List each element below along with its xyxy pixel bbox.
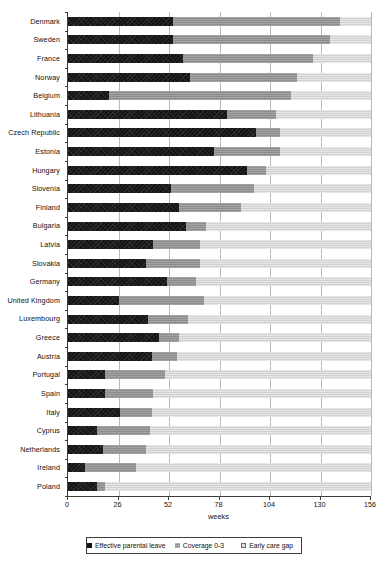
bar-row bbox=[68, 384, 371, 403]
plot-wrapper: DenmarkSwedenFranceNorwayBelgiumLithuani… bbox=[0, 0, 388, 512]
bar-segment bbox=[103, 445, 146, 454]
bar-segment bbox=[148, 315, 189, 324]
bar-segment bbox=[227, 110, 276, 119]
bar-segment bbox=[214, 147, 280, 156]
bar-row bbox=[68, 217, 371, 236]
bar-row bbox=[68, 124, 371, 143]
stacked-bar bbox=[68, 240, 371, 249]
bar-segment bbox=[313, 54, 371, 63]
stacked-bar bbox=[68, 333, 371, 342]
x-axis-tick-label: 26 bbox=[114, 500, 122, 509]
bar-segment bbox=[68, 333, 159, 342]
bar-segment bbox=[68, 54, 183, 63]
bar-row bbox=[68, 477, 371, 496]
bar-segment bbox=[109, 91, 292, 100]
x-axis-tick-label: 52 bbox=[164, 500, 172, 509]
y-axis-label: Latvia bbox=[0, 235, 64, 254]
stacked-bar bbox=[68, 315, 371, 324]
bar-segment bbox=[190, 73, 297, 82]
bar-segment bbox=[68, 445, 103, 454]
y-axis-label: Denmark bbox=[0, 12, 64, 31]
y-axis-label: United Kingdom bbox=[0, 291, 64, 310]
y-axis-label: Hungary bbox=[0, 161, 64, 180]
stacked-bar bbox=[68, 184, 371, 193]
bar-segment bbox=[68, 277, 167, 286]
bar-segment bbox=[173, 17, 340, 26]
bar-row bbox=[68, 31, 371, 50]
bar-segment bbox=[340, 17, 371, 26]
legend-label: Coverage 0-3 bbox=[183, 542, 224, 549]
bar-segment bbox=[330, 35, 371, 44]
y-axis-label: Luxembourg bbox=[0, 310, 64, 329]
y-axis-tick bbox=[65, 310, 68, 311]
y-axis-tick bbox=[65, 291, 68, 292]
y-axis-tick bbox=[65, 31, 68, 32]
bar-segment bbox=[254, 184, 371, 193]
bar-segment bbox=[97, 426, 149, 435]
bar-segment bbox=[165, 370, 371, 379]
bar-row bbox=[68, 310, 371, 329]
bar-segment bbox=[247, 166, 266, 175]
bar-segment bbox=[152, 352, 177, 361]
y-axis-label: Sweden bbox=[0, 31, 64, 50]
y-axis-tick bbox=[65, 254, 68, 255]
bar-row bbox=[68, 49, 371, 68]
stacked-bar bbox=[68, 54, 371, 63]
x-axis-tick-label: 130 bbox=[314, 500, 326, 509]
bar-segment bbox=[179, 203, 241, 212]
grey-square-icon bbox=[175, 543, 180, 548]
bar-segment bbox=[119, 296, 204, 305]
y-axis-tick bbox=[65, 49, 68, 50]
bar-segment bbox=[120, 408, 151, 417]
stacked-bar bbox=[68, 91, 371, 100]
bar-segment bbox=[152, 408, 371, 417]
bar-segment bbox=[68, 35, 173, 44]
bar-segment bbox=[68, 203, 179, 212]
bar-segment bbox=[280, 128, 371, 137]
bar-segment bbox=[68, 128, 256, 137]
y-axis-label: Greece bbox=[0, 328, 64, 347]
bar-segment bbox=[256, 128, 279, 137]
stacked-bar bbox=[68, 35, 371, 44]
legend-label: Effective parental leave bbox=[95, 542, 166, 549]
bar-row bbox=[68, 459, 371, 478]
y-axis-label: Bulgaria bbox=[0, 217, 64, 236]
bar-row bbox=[68, 440, 371, 459]
bar-segment bbox=[68, 91, 109, 100]
y-axis-label: Lithuania bbox=[0, 105, 64, 124]
x-axis-title: weeks bbox=[67, 512, 370, 521]
bar-segment bbox=[146, 259, 200, 268]
bar-segment bbox=[68, 315, 148, 324]
bar-row bbox=[68, 347, 371, 366]
x-axis-tick-label: 78 bbox=[215, 500, 223, 509]
stacked-bar bbox=[68, 445, 371, 454]
bar-row bbox=[68, 68, 371, 87]
bar-segment bbox=[105, 370, 165, 379]
y-axis-tick bbox=[65, 235, 68, 236]
bar-segment bbox=[68, 389, 105, 398]
bar-segment bbox=[153, 389, 371, 398]
y-axis-label: Portugal bbox=[0, 366, 64, 385]
y-axis-tick bbox=[65, 124, 68, 125]
bar-segment bbox=[150, 426, 371, 435]
stacked-bar bbox=[68, 389, 371, 398]
y-axis-label: Spain bbox=[0, 384, 64, 403]
bar-segment bbox=[177, 352, 371, 361]
gridline bbox=[371, 12, 372, 496]
legend-item-effective-parental-leave: Effective parental leave bbox=[87, 542, 166, 549]
y-axis-tick bbox=[65, 422, 68, 423]
bar-segment bbox=[266, 166, 371, 175]
stacked-bar bbox=[68, 426, 371, 435]
y-axis-label: Germany bbox=[0, 273, 64, 292]
bar-segment bbox=[68, 166, 247, 175]
y-axis-tick bbox=[65, 105, 68, 106]
bar-segment bbox=[159, 333, 178, 342]
bar-segment bbox=[68, 426, 97, 435]
bar-series-container bbox=[68, 12, 371, 496]
legend-label: Early care gap bbox=[249, 542, 293, 549]
stacked-bar bbox=[68, 147, 371, 156]
bar-segment bbox=[297, 73, 371, 82]
bar-row bbox=[68, 403, 371, 422]
y-axis-label: Italy bbox=[0, 403, 64, 422]
y-axis-category-labels: DenmarkSwedenFranceNorwayBelgiumLithuani… bbox=[0, 12, 64, 496]
